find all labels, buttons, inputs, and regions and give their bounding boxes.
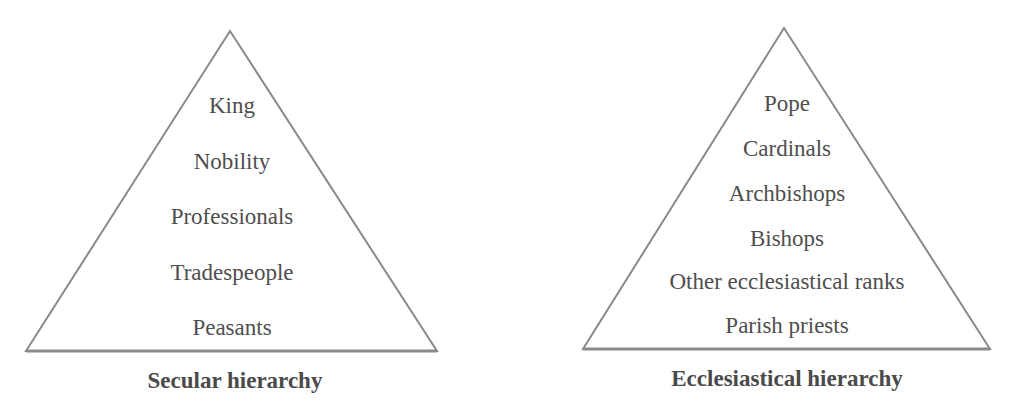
secular-level-nobility: Nobility xyxy=(20,149,444,175)
ecclesiastical-level-pope: Pope xyxy=(578,91,996,117)
secular-level-king: King xyxy=(20,93,444,119)
secular-level-peasants: Peasants xyxy=(20,315,444,341)
secular-level-professionals: Professionals xyxy=(20,204,444,230)
ecclesiastical-level-parish-priests: Parish priests xyxy=(578,313,996,339)
secular-pyramid: King Nobility Professionals Tradespeople… xyxy=(20,0,444,413)
secular-caption: Secular hierarchy xyxy=(23,368,447,394)
ecclesiastical-level-other-ranks: Other ecclesiastical ranks xyxy=(578,269,996,295)
ecclesiastical-pyramid: Pope Cardinals Archbishops Bishops Other… xyxy=(578,0,996,413)
ecclesiastical-caption: Ecclesiastical hierarchy xyxy=(578,366,996,392)
ecclesiastical-level-bishops: Bishops xyxy=(578,226,996,252)
secular-level-tradespeople: Tradespeople xyxy=(20,260,444,286)
ecclesiastical-level-cardinals: Cardinals xyxy=(578,136,996,162)
ecclesiastical-level-archbishops: Archbishops xyxy=(578,181,996,207)
hierarchy-diagram: King Nobility Professionals Tradespeople… xyxy=(0,0,1021,413)
